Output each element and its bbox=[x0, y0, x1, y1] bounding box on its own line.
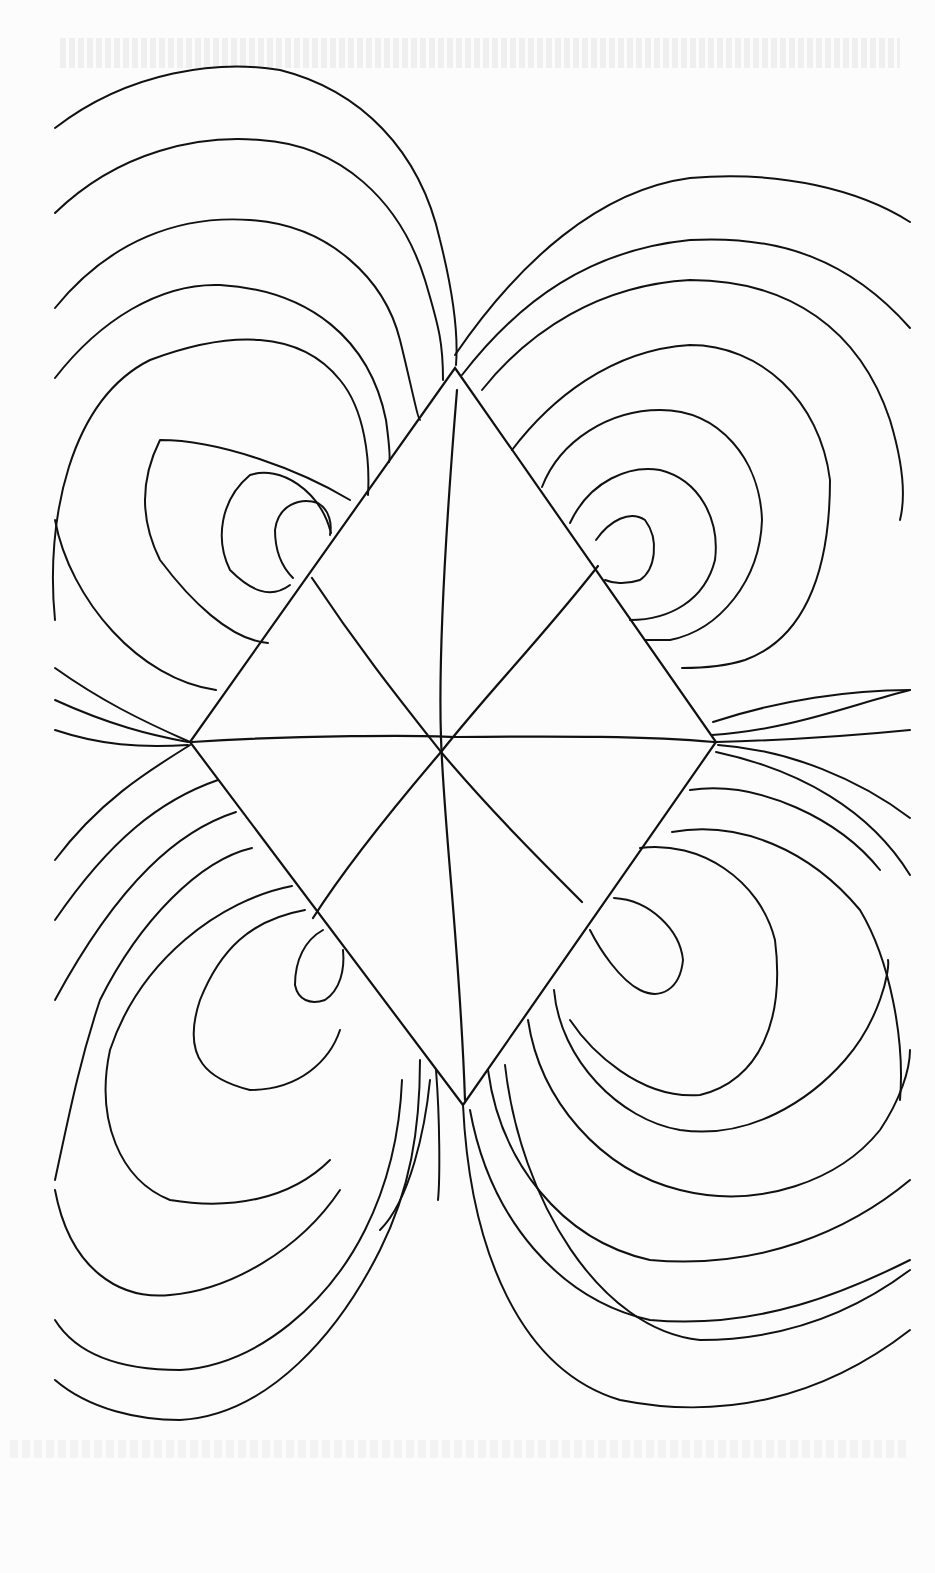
field-line-lower-right-11 bbox=[463, 1105, 910, 1407]
field-line-lower-left-4 bbox=[106, 886, 330, 1204]
field-line-lower-right-5 bbox=[590, 898, 683, 994]
field-line-upper-left-5 bbox=[55, 520, 216, 690]
vertical-axis bbox=[440, 390, 465, 1100]
internal-lines-group bbox=[192, 390, 714, 1100]
field-line-upper-left-4 bbox=[53, 340, 368, 620]
field-line-lower-left-5 bbox=[194, 910, 340, 1090]
field-line-lower-right-9 bbox=[470, 1110, 910, 1322]
field-line-lower-left-11 bbox=[436, 1070, 439, 1200]
field-line-lower-left-8 bbox=[55, 1080, 402, 1370]
field-line-upper-left-7 bbox=[222, 473, 331, 592]
field-line-upper-right-1 bbox=[462, 239, 910, 375]
field-line-upper-right-4 bbox=[542, 410, 762, 640]
field-line-diagram bbox=[0, 0, 935, 1573]
field-line-upper-right-5 bbox=[570, 469, 716, 620]
field-line-lower-left-9 bbox=[55, 1060, 420, 1420]
field-line-upper-right-0 bbox=[455, 176, 910, 355]
field-line-lower-right-1 bbox=[716, 752, 910, 875]
field-line-lower-right-6 bbox=[554, 960, 888, 1132]
field-line-lower-right-4 bbox=[570, 847, 777, 1095]
field-line-upper-right-3 bbox=[512, 345, 830, 668]
field-line-lower-left-1 bbox=[55, 780, 218, 920]
field-line-upper-left-1 bbox=[55, 139, 443, 380]
field-line-lower-right-7 bbox=[528, 1020, 910, 1196]
field-line-lower-right-8 bbox=[488, 1070, 910, 1262]
field-line-lower-right-10 bbox=[505, 1065, 910, 1340]
field-line-lower-right-3 bbox=[672, 829, 901, 1100]
field-line-upper-left-6 bbox=[145, 440, 350, 643]
field-line-lower-left-6 bbox=[295, 930, 343, 1002]
field-line-lower-left-3 bbox=[55, 848, 252, 1180]
diagonal-nw-se bbox=[312, 578, 582, 902]
diagonal-ne-sw bbox=[313, 566, 598, 918]
field-line-lower-left-7 bbox=[55, 1190, 340, 1296]
field-lines-group bbox=[53, 67, 910, 1420]
field-line-lower-left-2 bbox=[55, 812, 236, 1000]
field-line-upper-left-9 bbox=[55, 668, 190, 742]
field-line-upper-right-2 bbox=[482, 280, 903, 520]
field-line-lower-right-0 bbox=[718, 745, 910, 818]
field-line-lower-left-10 bbox=[380, 1080, 430, 1230]
field-line-upper-left-3 bbox=[55, 285, 390, 462]
field-line-upper-right-6 bbox=[596, 516, 654, 583]
drawing-page bbox=[0, 0, 935, 1573]
